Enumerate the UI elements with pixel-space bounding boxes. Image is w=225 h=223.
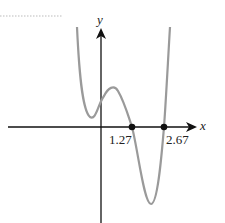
root-label-2: 2.67 [166, 132, 189, 148]
y-axis-label: y [97, 12, 103, 28]
chart-canvas [0, 0, 225, 223]
root-marker-1 [129, 124, 136, 131]
curve [77, 27, 170, 204]
x-axis-label: x [200, 118, 206, 134]
root-marker-2 [161, 124, 168, 131]
root-label-1: 1.27 [109, 132, 132, 148]
